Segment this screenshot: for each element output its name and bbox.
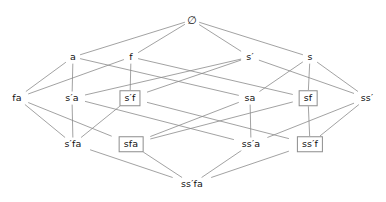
node-empty: ∅	[185, 15, 199, 26]
edge-s1-ss1	[259, 60, 354, 93]
edge-empty-a	[80, 22, 185, 55]
node-ss1fa: ss′fa	[179, 178, 205, 190]
edge-ss1f-ss1fa	[211, 151, 289, 177]
node-s1: s′	[244, 51, 256, 63]
edge-sfa-ss1fa	[143, 152, 182, 178]
edge-ss1-ss1a	[267, 103, 354, 137]
edge-a-fa	[26, 62, 66, 91]
edge-s1f-s1fa	[81, 106, 120, 138]
node-a: a	[68, 51, 78, 63]
edge-s1a-s1fa	[72, 105, 73, 138]
node-ss1: ss′	[359, 92, 376, 104]
node-s1fa: s′fa	[62, 138, 83, 150]
edge-fa-sfa	[28, 103, 112, 137]
node-s1f: s′f	[119, 90, 140, 106]
edge-s1f-ss1f	[147, 102, 289, 138]
edge-sa-ss1a	[250, 105, 251, 138]
edge-s1a-ss1a	[85, 101, 234, 139]
edge-s-sf	[308, 64, 309, 91]
node-sf: sf	[299, 90, 318, 106]
edge-s1-s1f	[147, 60, 241, 92]
edge-f-s1f	[130, 64, 131, 91]
edge-sf-sfa	[150, 102, 292, 139]
node-ss1f: ss′f	[297, 136, 323, 152]
edge-a-sa	[80, 59, 239, 96]
node-sfa: sfa	[119, 136, 144, 152]
edge-ss1a-ss1fa	[202, 151, 242, 178]
node-s: s	[305, 51, 314, 63]
node-ss1a: ss′a	[240, 138, 263, 150]
edge-empty-s	[199, 22, 303, 55]
edge-f-fa	[28, 60, 124, 94]
edge-a-s1a	[72, 64, 73, 92]
node-sa: sa	[242, 92, 257, 104]
edge-s-sa	[260, 62, 303, 92]
edge-layer	[0, 0, 386, 202]
node-s1a: s′a	[63, 92, 81, 104]
edge-s-ss1	[317, 62, 358, 91]
node-fa: fa	[10, 92, 24, 104]
edge-empty-f	[138, 24, 185, 52]
node-f: f	[127, 51, 135, 63]
hasse-diagram: ∅afs′sfas′as′fsasfss′s′fasfass′ass′fss′f…	[0, 0, 386, 202]
